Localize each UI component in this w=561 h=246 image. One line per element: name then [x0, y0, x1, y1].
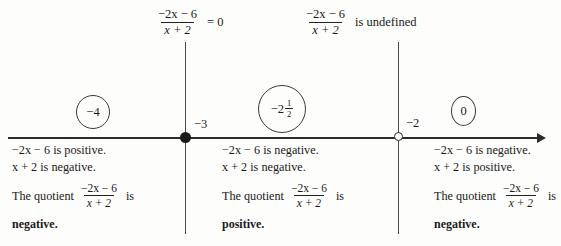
test-value-right-label: 0 — [460, 105, 466, 118]
interval-right-numerator-sign: −2x − 6 is negative. — [434, 144, 561, 156]
zero-header-denominator: x + 2 — [161, 22, 193, 37]
test-value-middle-fraction: 1 2 — [285, 99, 293, 118]
interval-right-quotient-denominator: x + 2 — [506, 195, 536, 209]
undefined-header-denominator: x + 2 — [309, 22, 341, 37]
interval-right-quotient-is: is — [548, 190, 556, 202]
zero-header-tail: = 0 — [207, 15, 223, 30]
interval-middle-quotient: The quotient −2x − 6 x + 2 is — [222, 182, 392, 209]
interval-right-quotient-lead: The quotient — [434, 190, 496, 202]
interval-right-quotient-fraction: −2x − 6 x + 2 — [500, 182, 542, 209]
number-line-axis — [8, 137, 538, 139]
interval-left-quotient-numerator: −2x − 6 — [78, 182, 120, 195]
zero-header: −2x − 6 x + 2 = 0 — [152, 8, 224, 37]
test-value-middle-frac-numerator: 1 — [285, 99, 293, 108]
test-value-left-label: −4 — [86, 106, 99, 119]
interval-left-block: −2x − 6 is positive. x + 2 is negative. … — [12, 144, 180, 230]
tick-label-minus-2: −2 — [406, 116, 419, 131]
undefined-header-fraction: −2x − 6 x + 2 — [303, 8, 348, 37]
interval-left-quotient-denominator: x + 2 — [84, 195, 114, 209]
interval-middle-block: −2x − 6 is negative. x + 2 is negative. … — [222, 144, 392, 230]
undefined-header-numerator: −2x − 6 — [303, 8, 348, 22]
interval-middle-quotient-is: is — [336, 190, 344, 202]
interval-left-conclusion: negative. — [12, 218, 180, 230]
interval-middle-quotient-lead: The quotient — [222, 190, 284, 202]
undefined-header: −2x − 6 x + 2 is undefined — [300, 8, 417, 37]
interval-right-block: −2x − 6 is negative. x + 2 is positive. … — [434, 144, 561, 230]
zero-header-numerator: −2x − 6 — [155, 8, 200, 22]
axis-arrow-right-icon — [537, 133, 546, 143]
closed-dot-marker-icon — [180, 132, 191, 143]
interval-left-denominator-sign: x + 2 is negative. — [12, 161, 180, 173]
test-value-middle-frac-denominator: 2 — [285, 108, 293, 118]
undefined-header-tail: is undefined — [355, 15, 416, 30]
interval-left-quotient-is: is — [126, 190, 134, 202]
interval-right-quotient: The quotient −2x − 6 x + 2 is — [434, 182, 561, 209]
interval-right-denominator-sign: x + 2 is positive. — [434, 161, 561, 173]
interval-right-quotient-numerator: −2x − 6 — [500, 182, 542, 195]
test-value-middle-whole: −2 — [271, 103, 284, 116]
interval-middle-denominator-sign: x + 2 is negative. — [222, 161, 392, 173]
interval-middle-quotient-denominator: x + 2 — [294, 195, 324, 209]
interval-left-quotient-lead: The quotient — [12, 190, 74, 202]
test-value-left: −4 — [76, 95, 110, 129]
interval-middle-conclusion: positive. — [222, 218, 392, 230]
interval-left-quotient: The quotient −2x − 6 x + 2 is — [12, 182, 180, 209]
tick-label-minus-3: −3 — [194, 117, 207, 132]
test-value-right: 0 — [451, 96, 476, 126]
open-circle-marker-icon — [394, 132, 403, 141]
interval-middle-quotient-numerator: −2x − 6 — [288, 182, 330, 195]
interval-middle-quotient-fraction: −2x − 6 x + 2 — [288, 182, 330, 209]
interval-middle-numerator-sign: −2x − 6 is negative. — [222, 144, 392, 156]
zero-header-fraction: −2x − 6 x + 2 — [155, 8, 200, 37]
interval-right-conclusion: negative. — [434, 218, 561, 230]
interval-left-numerator-sign: −2x − 6 is positive. — [12, 144, 180, 156]
interval-left-quotient-fraction: −2x − 6 x + 2 — [78, 182, 120, 209]
test-value-middle: −2 1 2 — [258, 85, 306, 133]
